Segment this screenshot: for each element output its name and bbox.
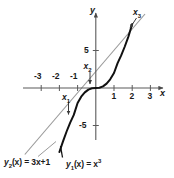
root-label-x2-sub: 2 [88, 67, 91, 73]
root-label-x2: x2 [84, 62, 92, 73]
equation-label-y1: y1(x) = x3 [66, 158, 101, 171]
y-tick-label-neg5: -5 [79, 121, 86, 130]
x-axis-label: x [160, 89, 165, 98]
plot-canvas [0, 0, 174, 178]
x-tick-label-2: 2 [130, 92, 135, 101]
equation-y2-body: (x) = 3x+1 [12, 157, 50, 167]
equation-label-y2: y2(x) = 3x+1 [4, 158, 50, 169]
y-axis [93, 13, 99, 140]
line-series-y2 [25, 14, 145, 155]
cubic-line-intersection-figure: -3 -2 -1 1 2 3 5 -5 y x x1 x2 x3 y2(x) =… [0, 0, 174, 178]
equation-leader-lines [38, 142, 63, 158]
root-label-x3-sub: 3 [138, 13, 141, 19]
x-tick-label-neg3: -3 [34, 72, 41, 81]
root-label-x1-sub: 1 [67, 98, 70, 104]
root-label-x1: x1 [62, 93, 70, 104]
y-tick-label-5: 5 [84, 46, 89, 55]
x-tick-label-neg2: -2 [52, 72, 59, 81]
equation-y1-body: (x) = x [74, 159, 98, 169]
x-tick-label-neg1: -1 [70, 72, 77, 81]
root-label-x3: x3 [133, 8, 141, 19]
x-tick-label-1: 1 [112, 92, 117, 101]
equation-y1-sup: 3 [98, 158, 101, 164]
x-tick-label-3: 3 [148, 92, 153, 101]
y-axis-label: y [90, 6, 95, 15]
